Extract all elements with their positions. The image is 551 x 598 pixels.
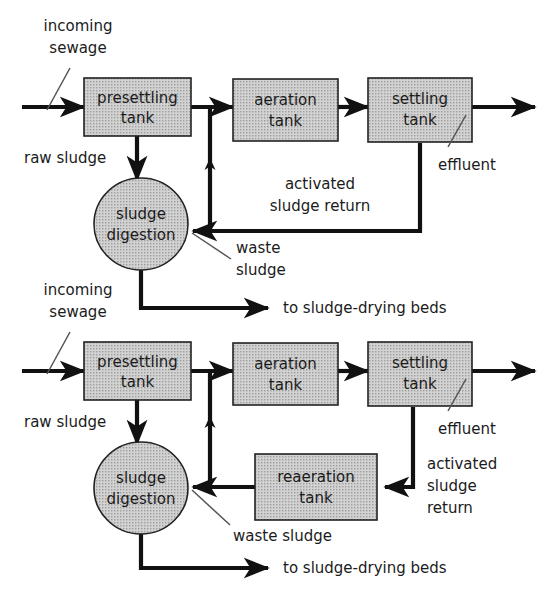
presettling-tank-2-box[interactable] (84, 342, 191, 400)
aeration-tank-2-label-line1: aeration (254, 355, 317, 373)
node-aeration-tank[interactable]: aeration tank (233, 79, 338, 141)
presettling-tank-box[interactable] (84, 78, 191, 136)
settling-tank-label-line2: tank (403, 111, 437, 129)
effluent-label: effluent (438, 156, 496, 174)
node-presettling-tank-2[interactable]: presettling tank (84, 342, 191, 400)
to-sludge-drying-beds-label: to sludge-drying beds (283, 299, 447, 317)
incoming-sewage-label-line2: sewage (49, 39, 106, 57)
raw-sludge-2-label: raw sludge (24, 413, 106, 431)
reaeration-tank-label-line2: tank (299, 489, 333, 507)
node-presettling-tank[interactable]: presettling tank (84, 78, 191, 136)
aeration-tank-label-line2: tank (269, 112, 303, 130)
raw-sludge-label: raw sludge (24, 149, 106, 167)
activated-sludge-return-label-line1: activated (285, 175, 355, 193)
presettling-tank-label-line2: tank (121, 109, 155, 127)
activated-sludge-return-2-label-line1: activated (427, 455, 497, 473)
aeration-tank-label-line1: aeration (254, 91, 317, 109)
activated-sludge-return-label-line2: sludge return (270, 197, 370, 215)
sludge-digestion-circle[interactable] (94, 178, 188, 270)
waste-sludge-2-label: waste sludge (233, 527, 332, 545)
activated-sludge-return-2-label-line3: return (427, 499, 473, 517)
node-sludge-digestion-2[interactable]: sludge digestion (94, 442, 188, 534)
node-aeration-tank-2[interactable]: aeration tank (233, 343, 338, 405)
sludge-digestion-label-line1: sludge (116, 205, 166, 223)
to-sludge-drying-beds-2-label: to sludge-drying beds (283, 559, 447, 577)
incoming-sewage-2-label-line2: sewage (49, 303, 106, 321)
sludge-digestion-2-circle[interactable] (94, 442, 188, 534)
settling-tank-label-line1: settling (392, 90, 448, 108)
incoming-sewage-2-label-line1: incoming (44, 281, 113, 299)
aeration-tank-2-box[interactable] (233, 343, 338, 405)
waste-sludge-label-line2: sludge (236, 261, 286, 279)
incoming-sewage-label-line1: incoming (44, 17, 113, 35)
presettling-tank-2-label-line2: tank (121, 373, 155, 391)
reaeration-tank-label-line1: reaeration (277, 468, 355, 486)
aeration-tank-2-label-line2: tank (269, 376, 303, 394)
aeration-tank-box[interactable] (233, 79, 338, 141)
settling-tank-2-label-line2: tank (403, 375, 437, 393)
sludge-digestion-2-label-line1: sludge (116, 469, 166, 487)
activated-sludge-return-2-label-line2: sludge (427, 477, 477, 495)
node-reaeration-tank[interactable]: reaeration tank (255, 454, 377, 520)
sludge-digestion-2-label-line2: digestion (107, 490, 176, 508)
settling-tank-2-label-line1: settling (392, 354, 448, 372)
reaeration-tank-box[interactable] (255, 454, 377, 520)
flow-diagram-canvas: presettling tank aeration tank settling … (0, 0, 551, 598)
sludge-digestion-label-line2: digestion (107, 226, 176, 244)
presettling-tank-2-label-line1: presettling (97, 353, 178, 371)
process-flow-diagram: presettling tank aeration tank settling … (0, 0, 551, 598)
presettling-tank-label-line1: presettling (97, 89, 178, 107)
effluent-2-label: effluent (438, 420, 496, 438)
node-sludge-digestion[interactable]: sludge digestion (94, 178, 188, 270)
waste-sludge-label-line1: waste (236, 239, 280, 257)
